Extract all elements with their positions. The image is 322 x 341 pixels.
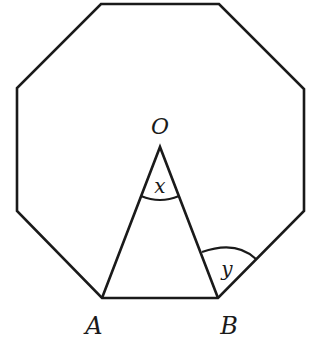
octagon-diagram: O x y A B bbox=[0, 0, 322, 341]
label-x: x bbox=[154, 174, 165, 198]
label-y: y bbox=[220, 257, 233, 281]
label-o: O bbox=[151, 114, 169, 139]
label-b: B bbox=[219, 312, 238, 340]
triangle-oab bbox=[102, 147, 218, 298]
label-a: A bbox=[83, 312, 102, 340]
